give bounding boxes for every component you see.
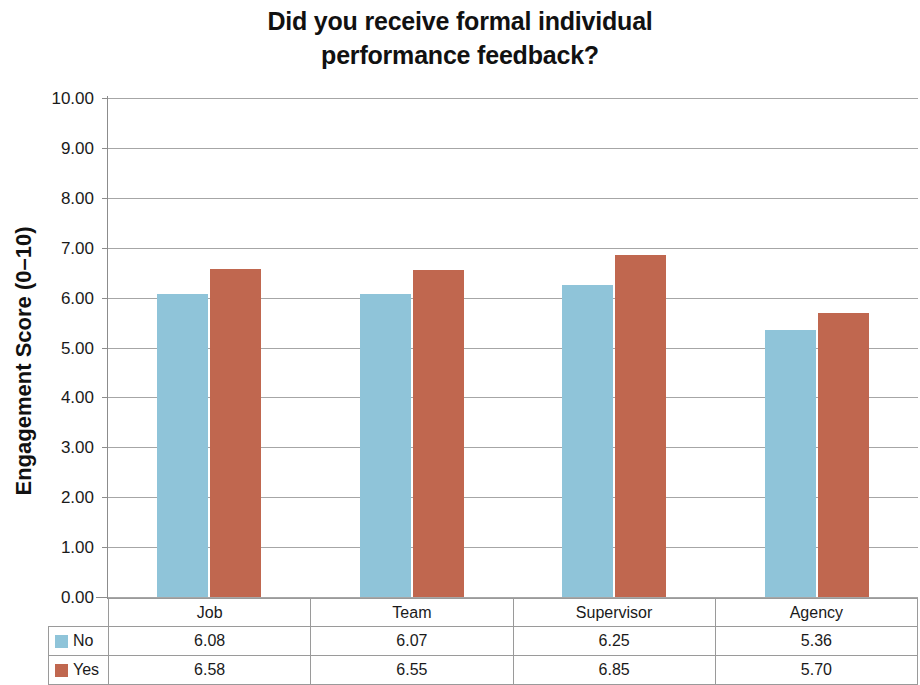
table-corner-cell — [49, 599, 109, 627]
bar-team-yes — [413, 270, 464, 597]
y-axis-tick — [102, 98, 108, 99]
column-header-team: Team — [311, 599, 513, 627]
cell-agency-no: 5.36 — [715, 627, 917, 656]
bar-supervisor-no — [562, 285, 613, 597]
chart-title-line-1: Did you receive formal individual — [0, 4, 920, 38]
y-axis-tick — [102, 447, 108, 448]
table-row: No6.086.076.255.36 — [49, 627, 918, 656]
cell-team-yes: 6.55 — [311, 656, 513, 685]
y-axis-tick — [102, 248, 108, 249]
chart-title: Did you receive formal individual perfor… — [0, 4, 920, 72]
legend-label: No — [73, 632, 93, 649]
legend-swatch-icon — [55, 664, 68, 677]
bar-supervisor-yes — [615, 255, 666, 597]
y-axis-tick — [102, 547, 108, 548]
plot-area: 10.009.008.007.006.005.004.003.002.001.0… — [108, 98, 918, 597]
legend-label: Yes — [73, 661, 99, 678]
column-header-supervisor: Supervisor — [513, 599, 715, 627]
y-axis-tick — [102, 397, 108, 398]
column-header-agency: Agency — [715, 599, 917, 627]
legend-swatch-icon — [55, 635, 68, 648]
bar-agency-no — [765, 330, 816, 597]
cell-agency-yes: 5.70 — [715, 656, 917, 685]
bar-team-no — [360, 294, 411, 597]
cell-team-no: 6.07 — [311, 627, 513, 656]
bar-job-yes — [210, 269, 261, 597]
legend-item-yes[interactable]: Yes — [49, 656, 109, 685]
gridline — [108, 198, 918, 199]
y-axis-tick — [102, 348, 108, 349]
y-axis-tick-label: 6.00 — [34, 290, 94, 307]
column-header-job: Job — [109, 599, 311, 627]
y-axis-tick-label: 9.00 — [34, 140, 94, 157]
y-axis-tick-label: 4.00 — [34, 389, 94, 406]
chart-title-line-2: performance feedback? — [0, 38, 920, 72]
gridline — [108, 148, 918, 149]
y-axis-tick-label: 3.00 — [34, 439, 94, 456]
cell-supervisor-no: 6.25 — [513, 627, 715, 656]
y-axis-tick-label: 2.00 — [34, 489, 94, 506]
cell-job-yes: 6.58 — [109, 656, 311, 685]
y-axis-title: Engagement Score (0–10) — [11, 151, 37, 571]
y-axis-tick-label: 7.00 — [34, 240, 94, 257]
y-axis-tick — [102, 497, 108, 498]
table-row: Yes6.586.556.855.70 — [49, 656, 918, 685]
cell-job-no: 6.08 — [109, 627, 311, 656]
gridline — [108, 98, 918, 99]
y-axis-tick-label: 10.00 — [34, 90, 94, 107]
y-axis-tick — [102, 148, 108, 149]
y-axis-tick — [102, 298, 108, 299]
bar-agency-yes — [818, 313, 869, 597]
cell-supervisor-yes: 6.85 — [513, 656, 715, 685]
y-axis-tick-label: 1.00 — [34, 539, 94, 556]
y-axis-tick-label: 5.00 — [34, 340, 94, 357]
data-table: JobTeamSupervisorAgencyNo6.086.076.255.3… — [48, 598, 918, 685]
gridline — [108, 248, 918, 249]
legend-item-no[interactable]: No — [49, 627, 109, 656]
table-header-row: JobTeamSupervisorAgency — [49, 599, 918, 627]
y-axis-tick — [102, 198, 108, 199]
y-axis-tick-label: 8.00 — [34, 190, 94, 207]
bar-job-no — [157, 294, 208, 597]
